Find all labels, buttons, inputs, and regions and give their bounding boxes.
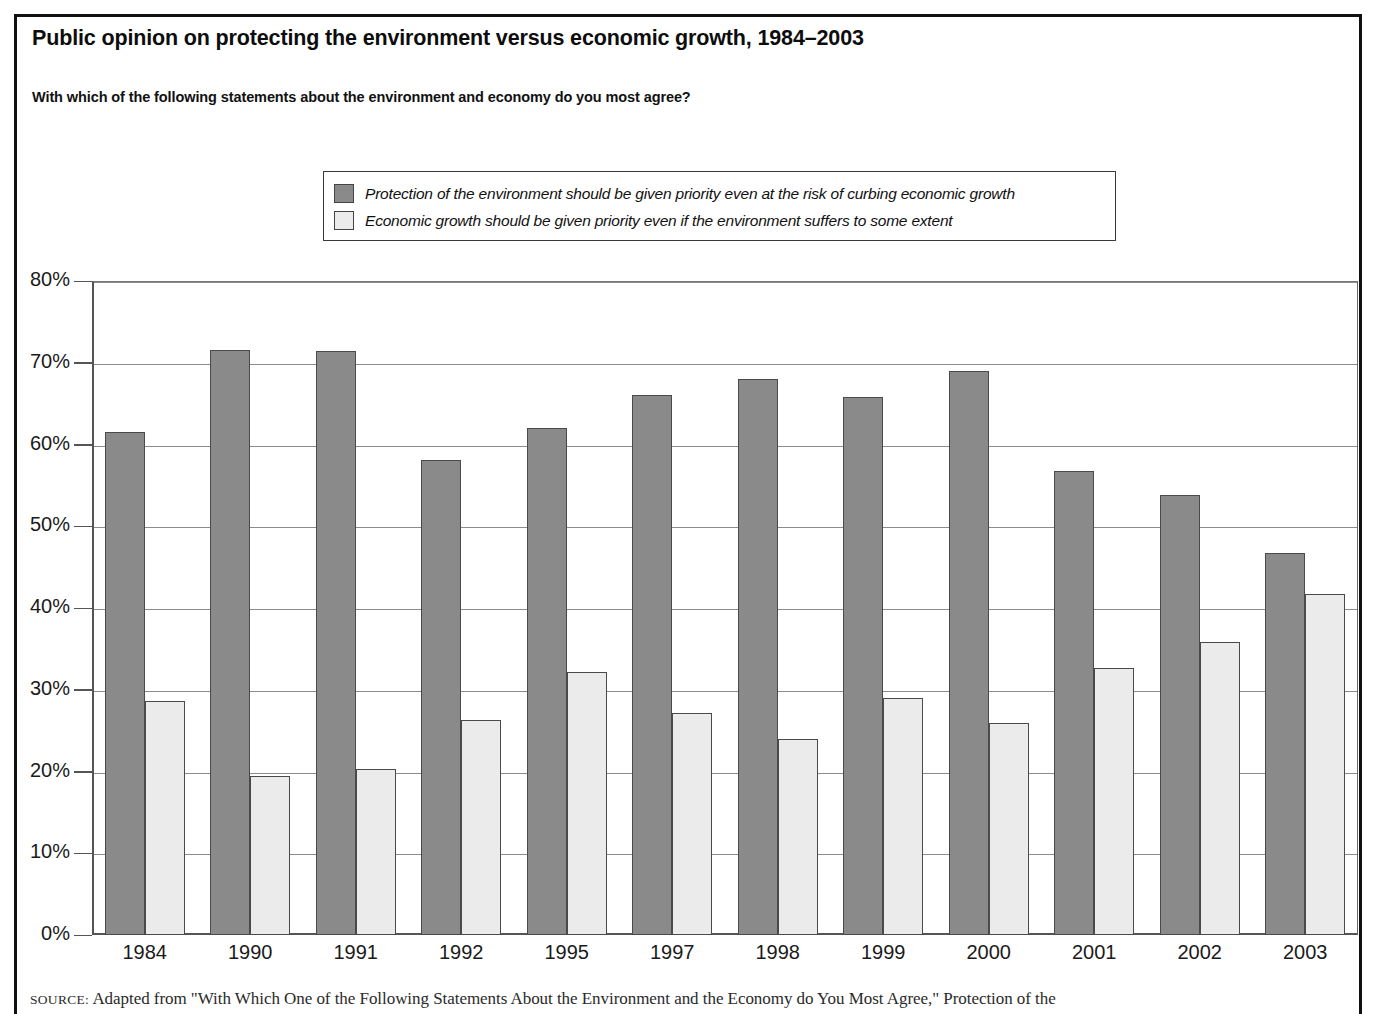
x-axis-tick-label: 1995 — [514, 941, 620, 964]
y-axis-tick-label: 0% — [6, 922, 70, 945]
y-axis-tick-label: 20% — [6, 759, 70, 782]
bar-2001-series-2 — [1094, 668, 1134, 935]
y-axis-tick-mark — [74, 771, 92, 773]
y-axis-tick-mark — [74, 526, 92, 528]
x-axis-tick-label: 1992 — [409, 941, 515, 964]
source-label: SOURCE: — [30, 992, 89, 1007]
bar-2000-series-1 — [949, 371, 989, 935]
bar-1991-series-1 — [316, 351, 356, 935]
bar-1991-series-2 — [356, 769, 396, 935]
y-axis-tick-mark — [74, 444, 92, 446]
y-axis-tick-mark — [74, 935, 92, 937]
bar-1999-series-1 — [843, 397, 883, 935]
y-axis-tick-label: 50% — [6, 513, 70, 536]
bar-1999-series-2 — [883, 698, 923, 935]
figure-page: Public opinion on protecting the environ… — [0, 0, 1378, 1014]
x-axis-tick-label: 2000 — [936, 941, 1042, 964]
bar-2003-series-2 — [1305, 594, 1345, 935]
bar-1998-series-2 — [778, 739, 818, 935]
y-axis-tick-mark — [74, 362, 92, 364]
bar-1990-series-2 — [250, 776, 290, 935]
y-axis-tick-mark — [74, 689, 92, 691]
source-text: Adapted from "With Which One of the Foll… — [89, 989, 1056, 1008]
bar-2003-series-1 — [1265, 553, 1305, 935]
bar-1995-series-1 — [527, 428, 567, 935]
bar-1997-series-1 — [632, 395, 672, 935]
bar-1992-series-1 — [421, 460, 461, 935]
y-axis-tick-label: 60% — [6, 432, 70, 455]
gridline — [94, 446, 1357, 447]
bar-1984-series-1 — [105, 432, 145, 935]
gridline — [94, 364, 1357, 365]
y-axis-tick-mark — [74, 281, 92, 283]
y-axis-tick-label: 70% — [6, 350, 70, 373]
x-axis-tick-label: 1999 — [831, 941, 937, 964]
x-axis-tick-label: 2002 — [1147, 941, 1253, 964]
bar-2000-series-2 — [989, 723, 1029, 935]
x-axis-tick-label: 1998 — [725, 941, 831, 964]
bar-1984-series-2 — [145, 701, 185, 935]
x-axis-tick-label: 1997 — [620, 941, 726, 964]
y-axis-tick-label: 40% — [6, 595, 70, 618]
bar-2001-series-1 — [1054, 471, 1094, 935]
bar-2002-series-1 — [1160, 495, 1200, 935]
gridline — [94, 282, 1357, 283]
y-axis-tick-label: 10% — [6, 840, 70, 863]
bar-2002-series-2 — [1200, 642, 1240, 935]
y-axis-tick-mark — [74, 853, 92, 855]
bar-1992-series-2 — [461, 720, 501, 935]
x-axis-tick-label: 1991 — [303, 941, 409, 964]
bar-1997-series-2 — [672, 713, 712, 935]
y-axis-tick-mark — [74, 608, 92, 610]
x-axis-tick-label: 1984 — [92, 941, 198, 964]
x-axis-tick-label: 1990 — [198, 941, 304, 964]
bar-1998-series-1 — [738, 379, 778, 935]
source-note: SOURCE: Adapted from "With Which One of … — [30, 989, 1056, 1009]
chart-plot: 0%10%20%30%40%50%60%70%80%19841990199119… — [0, 0, 1378, 1014]
y-axis-tick-label: 30% — [6, 677, 70, 700]
x-axis-tick-label: 2001 — [1042, 941, 1148, 964]
bar-1990-series-1 — [210, 350, 250, 935]
bar-1995-series-2 — [567, 672, 607, 935]
y-axis-tick-label: 80% — [6, 268, 70, 291]
x-axis-tick-label: 2003 — [1253, 941, 1359, 964]
